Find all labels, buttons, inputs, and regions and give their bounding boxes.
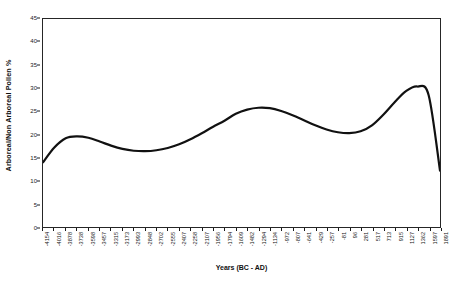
plot-area — [42, 18, 441, 228]
x-tick-mark — [373, 228, 374, 231]
x-tick-label: -1482 — [249, 232, 255, 246]
y-axis-title: Arboreal/Non Arboreal Pollen % — [0, 0, 18, 230]
y-tick-mark — [37, 88, 40, 89]
x-tick-label: 281 — [363, 232, 369, 241]
x-tick-label: -3457 — [101, 232, 107, 246]
x-tick-label: -2702 — [158, 232, 164, 246]
x-tick-label: -641 — [306, 232, 312, 243]
pollen-curve-svg — [43, 19, 440, 227]
x-tick-mark — [316, 228, 317, 231]
y-tick-mark — [37, 111, 40, 112]
pollen-curve-line — [43, 86, 440, 171]
y-tick-label: 35 — [30, 62, 37, 68]
y-tick-label: 40 — [30, 38, 37, 44]
x-tick-label: 1127 — [409, 232, 415, 244]
y-tick-mark — [37, 158, 40, 159]
y-tick-mark — [37, 181, 40, 182]
x-tick-label: -429 — [318, 232, 324, 243]
x-tick-label: -81 — [341, 232, 347, 240]
y-axis-title-text: Arboreal/Non Arboreal Pollen % — [5, 59, 14, 171]
y-tick-mark — [37, 18, 40, 19]
x-tick-label: -2258 — [192, 232, 198, 246]
x-tick-mark — [190, 228, 191, 231]
x-tick-label: -2107 — [204, 232, 210, 246]
x-tick-mark — [327, 228, 328, 231]
y-tick-label: 25 — [30, 108, 37, 114]
x-tick-mark — [213, 228, 214, 231]
x-tick-label: 96 — [352, 232, 358, 238]
x-tick-label: -257 — [329, 232, 335, 243]
x-tick-mark — [270, 228, 271, 231]
x-tick-mark — [156, 228, 157, 231]
x-tick-label: -2993 — [135, 232, 141, 246]
x-tick-mark — [133, 228, 134, 231]
y-tick-mark — [37, 64, 40, 65]
x-axis-ticks: -4154-4016-3878-3738-3598-3457-3315-3173… — [42, 228, 441, 262]
x-tick-label: -3315 — [113, 232, 119, 246]
x-tick-mark — [441, 228, 442, 231]
x-tick-label: -1134 — [272, 232, 278, 246]
x-tick-label: -2407 — [181, 232, 187, 246]
x-tick-label: -4154 — [44, 232, 50, 246]
x-tick-mark — [76, 228, 77, 231]
y-tick-label: 10 — [30, 178, 37, 184]
y-tick-label: 30 — [30, 85, 37, 91]
x-axis-title: Years (BC - AD) — [42, 264, 441, 271]
x-tick-label: -1609 — [238, 232, 244, 246]
x-tick-label: -3738 — [78, 232, 84, 246]
x-tick-label: -1794 — [227, 232, 233, 246]
x-tick-mark — [99, 228, 100, 231]
x-tick-label: 1362 — [420, 232, 426, 244]
x-tick-label: 1891 — [443, 232, 449, 244]
y-tick-mark — [37, 134, 40, 135]
x-tick-mark — [202, 228, 203, 231]
x-tick-mark — [418, 228, 419, 231]
y-tick-label: 20 — [30, 132, 37, 138]
x-tick-mark — [42, 228, 43, 231]
y-tick-mark — [37, 41, 40, 42]
x-tick-mark — [407, 228, 408, 231]
x-tick-label: -4016 — [56, 232, 62, 246]
x-tick-mark — [338, 228, 339, 231]
x-tick-label: -1294 — [261, 232, 267, 246]
x-tick-label: -3173 — [124, 232, 130, 246]
x-tick-mark — [65, 228, 66, 231]
y-tick-mark — [37, 228, 40, 229]
x-tick-mark — [88, 228, 89, 231]
x-tick-label: -2555 — [170, 232, 176, 246]
x-tick-mark — [361, 228, 362, 231]
x-tick-mark — [350, 228, 351, 231]
chart-figure: Arboreal/Non Arboreal Pollen % 051015202… — [0, 0, 458, 287]
x-tick-label: -1956 — [215, 232, 221, 246]
x-tick-label: -3878 — [67, 232, 73, 246]
x-tick-mark — [145, 228, 146, 231]
x-tick-mark — [247, 228, 248, 231]
x-tick-mark — [430, 228, 431, 231]
x-tick-mark — [53, 228, 54, 231]
x-tick-mark — [110, 228, 111, 231]
y-axis-ticks: 051015202530354045 — [18, 18, 40, 228]
x-tick-mark — [179, 228, 180, 231]
x-tick-label: 517 — [375, 232, 381, 241]
x-tick-label: -3598 — [90, 232, 96, 246]
x-tick-label: 713 — [386, 232, 392, 241]
y-tick-label: 45 — [30, 15, 37, 21]
x-tick-mark — [304, 228, 305, 231]
x-tick-mark — [167, 228, 168, 231]
x-tick-mark — [122, 228, 123, 231]
x-tick-mark — [395, 228, 396, 231]
x-tick-label: -2848 — [147, 232, 153, 246]
y-tick-label: 15 — [30, 155, 37, 161]
x-tick-mark — [384, 228, 385, 231]
x-tick-mark — [259, 228, 260, 231]
x-tick-label: -807 — [295, 232, 301, 243]
x-tick-label: 915 — [398, 232, 404, 241]
y-tick-mark — [37, 204, 40, 205]
x-tick-label: 1597 — [432, 232, 438, 244]
x-tick-mark — [224, 228, 225, 231]
x-tick-mark — [281, 228, 282, 231]
x-tick-mark — [236, 228, 237, 231]
x-tick-label: -972 — [284, 232, 290, 243]
x-tick-mark — [293, 228, 294, 231]
